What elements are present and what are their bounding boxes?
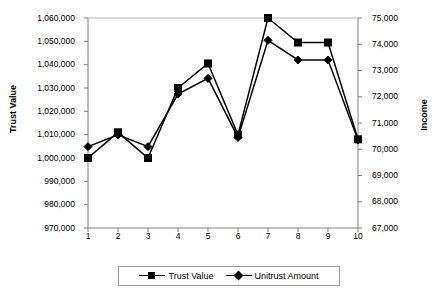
plot-area [0, 0, 447, 297]
marker-square [295, 39, 302, 46]
chart-figure: Trust Value Income 1,060,0001,050,0001,0… [0, 0, 447, 297]
marker-diamond [204, 74, 212, 82]
marker-diamond [84, 143, 92, 151]
series-line-trust-value [88, 18, 358, 158]
chart-legend: Trust ValueUnitrust Amount [118, 266, 340, 286]
legend-marker-square-icon [139, 271, 165, 281]
marker-diamond [264, 36, 272, 44]
marker-square [145, 155, 152, 162]
marker-square [265, 15, 272, 22]
marker-square [325, 39, 332, 46]
series-line-unitrust-amount [88, 40, 358, 146]
marker-diamond [324, 56, 332, 64]
legend-label: Unitrust Amount [255, 271, 319, 281]
legend-marker-diamond-icon [226, 271, 252, 281]
legend-item: Unitrust Amount [226, 271, 319, 281]
marker-square [85, 155, 92, 162]
marker-diamond [144, 143, 152, 151]
legend-label: Trust Value [168, 271, 213, 281]
marker-square [205, 60, 212, 67]
marker-diamond [294, 56, 302, 64]
legend-item: Trust Value [139, 271, 213, 281]
